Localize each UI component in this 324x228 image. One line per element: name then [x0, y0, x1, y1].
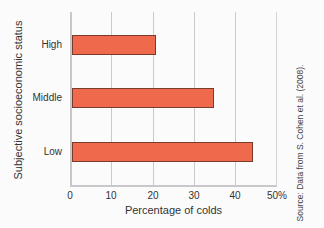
x-tick-20: 20 — [147, 190, 158, 201]
category-label-low: Low — [44, 146, 62, 157]
x-tick-0: 0 — [67, 190, 73, 201]
category-label-middle: Middle — [33, 92, 62, 103]
bar-low — [72, 142, 253, 162]
category-label-high: High — [41, 39, 62, 50]
x-axis-title: Percentage of colds — [70, 204, 277, 216]
y-axis-title: Subjective socioeconomic status — [12, 21, 24, 180]
bar-middle — [72, 88, 214, 108]
x-tick-40: 40 — [229, 190, 240, 201]
plot-area — [70, 12, 277, 187]
x-tick-30: 30 — [188, 190, 199, 201]
bar-high — [72, 35, 156, 55]
source-note: Source: Data from S. Cohen et al. (2008)… — [295, 65, 305, 222]
x-tick-50: 50% — [267, 190, 287, 201]
x-tick-10: 10 — [105, 190, 116, 201]
